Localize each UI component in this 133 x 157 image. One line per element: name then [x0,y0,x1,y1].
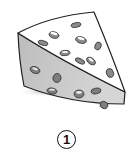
figure-number: 1 [63,133,70,146]
figure-number-label: 1 [57,130,76,149]
